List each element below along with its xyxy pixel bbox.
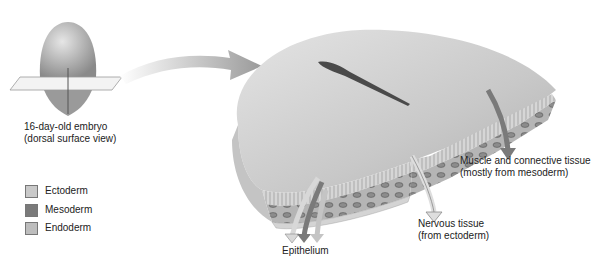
epithelium-label: Epithelium (282, 245, 329, 257)
ectoderm-swatch (25, 185, 38, 198)
magnify-arrow (120, 50, 262, 84)
mesoderm-swatch (25, 204, 38, 217)
nervous-label-line1: Nervous tissue (418, 218, 489, 230)
legend-label: Ectoderm (45, 185, 88, 197)
embryo-disc-cross-section (232, 30, 556, 229)
small-embryo-illustration (10, 22, 122, 116)
legend-item-endoderm: Endoderm (25, 221, 91, 235)
muscle-label: Muscle and connective tissue (mostly fro… (460, 155, 591, 179)
nervous-label: Nervous tissue (from ectoderm) (418, 218, 489, 242)
embryo-caption: 16-day-old embryo (dorsal surface view) (24, 121, 116, 145)
muscle-label-line1: Muscle and connective tissue (460, 155, 591, 167)
legend-label: Endoderm (45, 222, 91, 234)
nervous-label-line2: (from ectoderm) (418, 230, 489, 242)
legend-item-mesoderm: Mesoderm (25, 203, 92, 217)
legend-item-ectoderm: Ectoderm (25, 184, 88, 198)
embryo-caption-line2: (dorsal surface view) (24, 133, 116, 145)
embryo-caption-line1: 16-day-old embryo (24, 121, 116, 133)
muscle-label-line2: (mostly from mesoderm) (460, 167, 591, 179)
endoderm-swatch (25, 222, 38, 235)
legend-label: Mesoderm (45, 204, 92, 216)
